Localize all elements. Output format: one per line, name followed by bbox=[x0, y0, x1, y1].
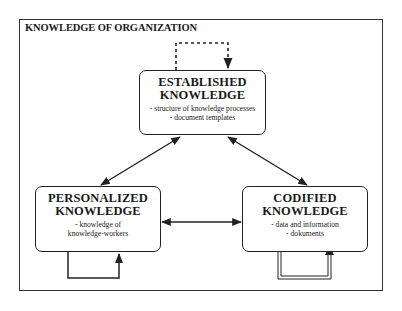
node-title: KNOWLEDGE bbox=[243, 205, 367, 218]
established-self-loop-arrow bbox=[176, 43, 228, 70]
established-knowledge-node: ESTABLISHED KNOWLEDGE - structure of kno… bbox=[139, 70, 266, 135]
node-description-line: - knowledge of bbox=[36, 220, 160, 229]
node-description-line: - dokuments bbox=[243, 229, 367, 238]
node-title: KNOWLEDGE bbox=[36, 205, 160, 218]
node-description: - structure of knowledge processes - doc… bbox=[140, 104, 265, 122]
node-description: - knowledge of knowledge-workers bbox=[36, 220, 160, 238]
node-title: KNOWLEDGE bbox=[140, 89, 265, 102]
codified-knowledge-node: CODIFIED KNOWLEDGE - data and informatio… bbox=[242, 186, 368, 252]
node-description-line: - structure of knowledge processes bbox=[140, 104, 265, 113]
connector-layer bbox=[0, 0, 402, 311]
established-personalized-arrow bbox=[101, 137, 180, 185]
codified-self-loop-arrow-inner bbox=[281, 252, 328, 276]
personalized-self-loop-arrow bbox=[68, 252, 119, 278]
node-description-line: - data and information bbox=[243, 220, 367, 229]
node-description-line: knowledge-workers bbox=[36, 229, 160, 238]
codified-self-loop-arrow-outer bbox=[278, 252, 331, 279]
node-description: - data and information - dokuments bbox=[243, 220, 367, 238]
node-description-line: - document templates bbox=[140, 113, 265, 122]
established-codified-arrow bbox=[228, 137, 307, 185]
personalized-knowledge-node: PERSONALIZED KNOWLEDGE - knowledge of kn… bbox=[35, 186, 161, 252]
